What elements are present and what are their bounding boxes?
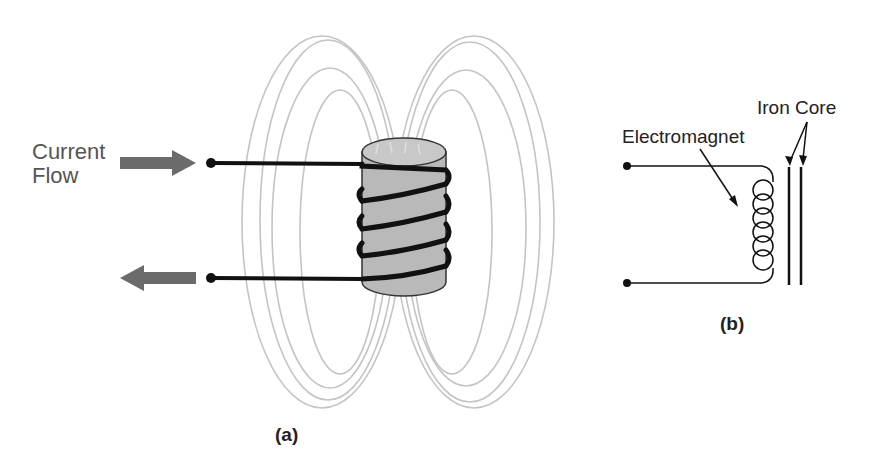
figure-b-diagram [0,0,891,475]
inductor-loops [753,180,773,270]
caption-b: (b) [720,313,744,335]
electromagnet-label: Electromagnet [622,125,745,149]
iron-core-label: Iron Core [757,96,836,120]
